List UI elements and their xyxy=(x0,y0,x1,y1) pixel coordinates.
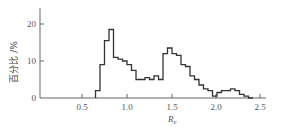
x-axis-label: Re xyxy=(167,114,177,126)
x-tick-0.5: 0.5 xyxy=(76,102,88,112)
x-tick-1.0: 1.0 xyxy=(121,102,133,112)
histogram-chart: 20 10 0 0.5 1.0 1.5 2.0 2.5 Re 百分比 /% xyxy=(0,0,286,134)
x-axis-label-sub: e xyxy=(174,118,177,126)
x-axis xyxy=(40,94,266,98)
histogram-step-line xyxy=(96,30,254,99)
y-tick-10: 10 xyxy=(27,56,37,66)
y-tick-0: 0 xyxy=(32,93,37,103)
x-tick-2.5: 2.5 xyxy=(254,102,266,112)
y-axis xyxy=(40,8,44,98)
x-tick-1.5: 1.5 xyxy=(166,102,178,112)
y-axis-label: 百分比 /% xyxy=(8,41,19,83)
y-tick-20: 20 xyxy=(27,19,37,29)
x-tick-2.0: 2.0 xyxy=(210,102,222,112)
